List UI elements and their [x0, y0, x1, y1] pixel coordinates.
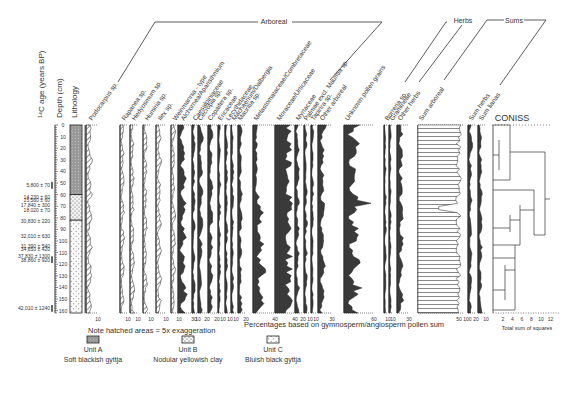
hatch-note: Note hatched areas = 5x exaggeration: [88, 326, 215, 335]
legend-description: Nodular yellowish clay: [153, 356, 223, 364]
age-label: 38,860 ± 920: [21, 257, 50, 263]
lithology-unit: [70, 195, 82, 221]
scale-label: 10: [163, 316, 169, 322]
depth-tick-label: 30: [60, 157, 66, 163]
age-label: 42,010 ± 1240: [18, 305, 50, 311]
depth-tick-label: 150: [59, 296, 68, 302]
depth-tick-label: 130: [59, 273, 68, 279]
depth-tick-label: 110: [59, 250, 67, 256]
age-label: 5,800 ± 70: [26, 182, 50, 188]
pollen-diagram: ArborealHerbsSums Podocarpus sp.Rapanea …: [0, 0, 568, 397]
depth-tick-label: 80: [60, 215, 66, 221]
legend-item: Unit BNodular yellowish clay: [153, 336, 223, 364]
legend-unit: Unit B: [178, 346, 197, 353]
scale-label: 10: [233, 316, 239, 322]
taxon-column: 20: [468, 125, 479, 322]
taxon-column: 30: [397, 125, 412, 322]
lithology-legend: Unit ASoft blackish gyttjaUnit BNodular …: [64, 336, 301, 364]
taxon-column: 20: [238, 125, 249, 322]
legend-description: Soft blackish gyttja: [64, 356, 122, 364]
legend-swatch: [182, 336, 194, 343]
taxon-column: 30: [318, 125, 335, 322]
legend-item: Unit ASoft blackish gyttja: [64, 336, 122, 364]
coniss-title: CONISS: [495, 113, 530, 123]
legend-swatch: [267, 336, 279, 343]
age-label: 18,020 ± 70: [24, 207, 51, 213]
group-label-sums: Sums: [505, 17, 523, 24]
age-label: 32,010 ± 630: [21, 233, 50, 239]
scale-label: 10: [135, 316, 141, 322]
taxa-curves: 1010101010103010202010101020404020101030…: [86, 125, 489, 322]
depth-tick-label: 90: [60, 226, 66, 232]
group-label-arboreal: Arboreal: [261, 18, 288, 25]
depth-tick-label: 60: [60, 192, 66, 198]
lithology-axis-title: Lithology: [70, 86, 79, 118]
taxon-column: 10: [143, 125, 154, 322]
age-label: 30,830 ± 220: [21, 218, 50, 224]
depth-tick-label: 0: [62, 122, 65, 128]
legend-unit: Unit A: [84, 346, 103, 353]
depth-tick-label: 160: [59, 308, 68, 314]
scale-label: 10: [148, 316, 154, 322]
scale-label: 20: [214, 316, 220, 322]
depth-tick-label: 120: [59, 261, 68, 267]
age-axis-title: ¹⁴C age (years BP): [37, 50, 46, 118]
scale-label: 10: [483, 316, 489, 322]
taxon-column: 10: [478, 125, 489, 322]
taxon-column: 40: [253, 125, 278, 322]
coniss-tick: 12: [548, 316, 554, 322]
depth-tick-label: 20: [60, 145, 66, 151]
coniss-dendrogram: CONISS24681012Total sum of squares: [492, 113, 560, 331]
scale-label: 20: [204, 316, 210, 322]
depth-tick-label: 70: [60, 203, 66, 209]
legend-description: Bluish black gyttja: [245, 356, 301, 364]
coniss-xlabel: Total sum of squares: [502, 325, 553, 331]
taxon-label: Podocarpus sp.: [87, 80, 120, 122]
coniss-tick: 4: [511, 316, 514, 322]
taxon-column: 60: [344, 125, 377, 322]
bottom-labels: Note hatched areas = 5x exaggerationPerc…: [88, 320, 444, 335]
legend-swatch: [87, 336, 99, 343]
scale-label: 10: [125, 316, 131, 322]
scale-label: 10: [227, 316, 233, 322]
scale-label: 10: [95, 316, 101, 322]
taxon-column: 10: [156, 125, 169, 322]
coniss-tick: 2: [502, 316, 505, 322]
taxon-column: 50 100: [418, 125, 472, 322]
taxon-column: 10: [389, 125, 396, 322]
legend-item: Unit CBluish black gyttja: [245, 336, 301, 364]
lithology-unit: [70, 220, 82, 313]
coniss-tick: 8: [530, 316, 533, 322]
column-headers: Podocarpus sp.Rapanea sp.Hedyosmum sp.Hu…: [87, 39, 502, 122]
age-label: 34,650 ± 420: [21, 246, 50, 252]
scale-label: 10: [195, 316, 201, 322]
lithology-column: [70, 125, 85, 313]
depth-tick-label: 140: [59, 284, 68, 290]
depth-tick-label: 40: [60, 168, 66, 174]
depth-tick-label: 50: [60, 180, 66, 186]
scale-label: 50 100: [456, 316, 472, 322]
taxon-column: 10: [130, 125, 141, 322]
depth-axis-title: Depth (cm): [55, 78, 64, 118]
coniss-tick: 6: [521, 316, 524, 322]
taxon-label: Sum arboreal: [417, 85, 445, 121]
scale-label: 10: [176, 316, 182, 322]
group-label-herbs: Herbs: [454, 17, 473, 24]
depth-tick-label: 100: [59, 238, 68, 244]
legend-unit: Unit C: [263, 346, 282, 353]
scale-label: 10: [220, 316, 226, 322]
taxon-label: Unknown pollen grains: [343, 63, 388, 122]
depth-tick-label: 10: [60, 134, 66, 140]
taxon-column: 10: [120, 125, 131, 322]
taxon-column: 10: [86, 125, 101, 322]
scale-label: 20: [473, 316, 479, 322]
lithology-unit: [70, 125, 82, 195]
coniss-tick: 10: [538, 316, 544, 322]
percentage-xlabel: Percentages based on gymnosperm/angiospe…: [244, 320, 444, 329]
